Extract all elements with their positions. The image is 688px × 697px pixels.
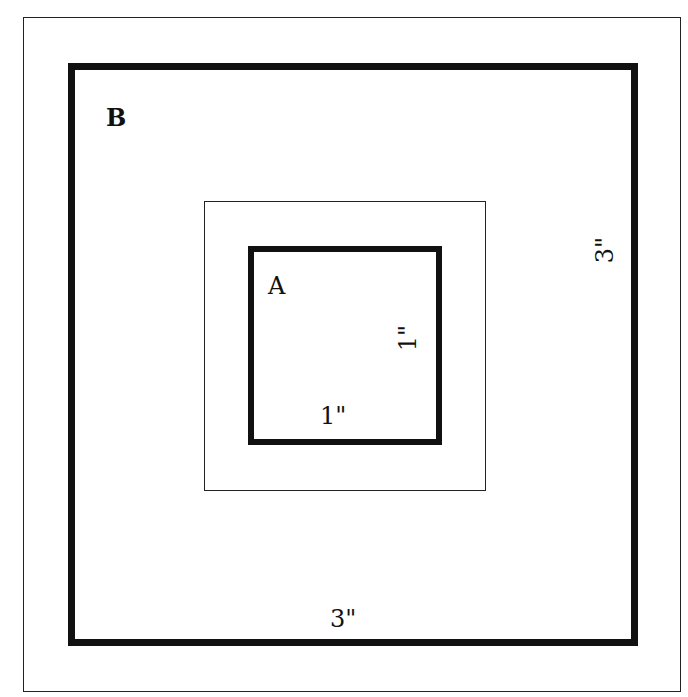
- square-a-side-dimension: 1": [396, 325, 420, 351]
- square-b-bottom-dimension: 3": [330, 607, 356, 631]
- square-a-bottom-dimension: 1": [320, 404, 346, 428]
- square-b-label: B: [106, 106, 126, 130]
- square-b-side-dimension: 3": [593, 237, 617, 263]
- square-a-label: A: [268, 274, 285, 298]
